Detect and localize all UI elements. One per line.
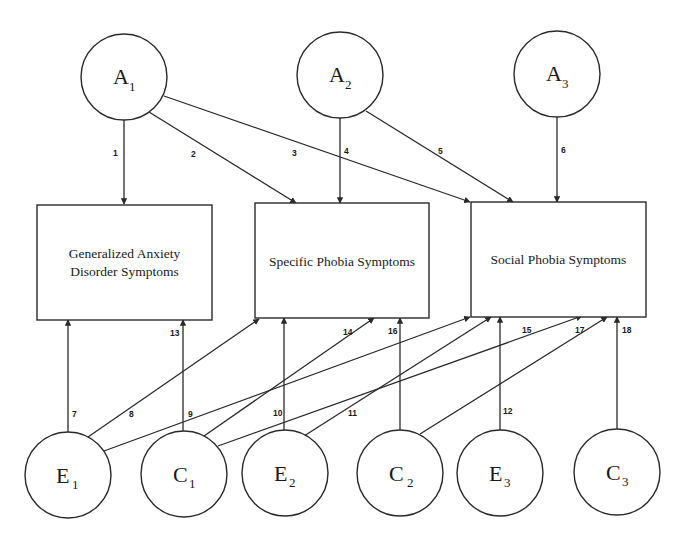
latent-e1-sub: 1 [72, 477, 79, 492]
path-label-8: 8 [129, 409, 134, 419]
latent-a3: A 3 [514, 31, 600, 117]
path-label-18: 18 [622, 325, 632, 335]
latent-c1-sub: 1 [189, 476, 196, 491]
latent-c2-letter: C [389, 461, 404, 486]
path-5-a2-social [366, 111, 513, 202]
latent-a3-letter: A [546, 61, 562, 86]
path-label-12: 12 [503, 406, 513, 416]
path-label-2: 2 [191, 149, 196, 159]
path-label-5: 5 [438, 146, 443, 156]
latent-a2: A 2 [297, 32, 383, 118]
path-label-1: 1 [113, 148, 118, 158]
observed-gad: Generalized Anxiety Disorder Symptoms [37, 205, 212, 320]
latent-e3-sub: 3 [504, 475, 511, 490]
path-label-9: 9 [188, 409, 193, 419]
path-label-15: 15 [522, 325, 532, 335]
path-2-a1-specific [149, 112, 296, 203]
latent-e2: E 2 [242, 430, 328, 516]
latent-e3: E 3 [457, 430, 543, 516]
latent-c2-sub: 2 [407, 475, 414, 490]
latent-a2-sub: 2 [345, 77, 352, 92]
latent-c2: C 2 [357, 430, 443, 516]
path-label-3: 3 [292, 148, 297, 158]
path-label-7: 7 [72, 409, 77, 419]
latent-c1: C 1 [141, 431, 227, 517]
latent-e1-letter: E [56, 463, 69, 488]
path-label-16: 16 [388, 326, 398, 336]
latent-e1: E 1 [25, 432, 111, 518]
path-label-6: 6 [561, 145, 566, 155]
latent-c1-letter: C [173, 462, 188, 487]
latent-a1-sub: 1 [129, 79, 136, 94]
social-phobia-label: Social Phobia Symptoms [491, 252, 627, 267]
latent-a2-letter: A [329, 62, 345, 87]
path-label-10: 10 [273, 408, 283, 418]
path-11-e2-social [304, 317, 491, 436]
path-label-17: 17 [575, 325, 585, 335]
latent-a1-letter: A [113, 64, 129, 89]
latent-a1: A 1 [81, 34, 167, 120]
latent-a3-sub: 3 [562, 76, 569, 91]
path-label-11: 11 [348, 408, 357, 418]
gad-label-line2: Disorder Symptoms [70, 264, 178, 279]
latent-c3-sub: 3 [622, 474, 629, 489]
latent-e2-letter: E [274, 461, 287, 486]
latent-e3-letter: E [489, 461, 502, 486]
path-label-14: 14 [343, 327, 353, 337]
path-label-4: 4 [344, 146, 349, 156]
latent-c3: C 3 [574, 429, 660, 515]
observed-social-phobia: Social Phobia Symptoms [471, 202, 646, 317]
gad-label-line1: Generalized Anxiety [69, 246, 181, 261]
observed-specific-phobia: Specific Phobia Symptoms [255, 203, 429, 318]
specific-phobia-label: Specific Phobia Symptoms [269, 254, 415, 269]
latent-e2-sub: 2 [289, 475, 296, 490]
latent-c3-letter: C [606, 460, 621, 485]
path-label-13: 13 [170, 328, 180, 338]
path-diagram: 1 2 3 4 5 6 7 8 9 10 11 12 13 14 15 16 1… [0, 0, 687, 541]
